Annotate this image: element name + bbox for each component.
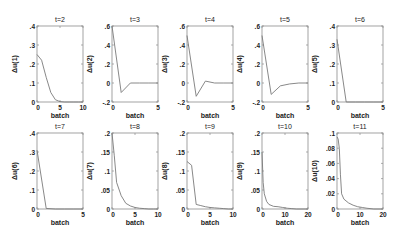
axes-box [262, 133, 308, 209]
x-axis-label: batch [351, 112, 370, 119]
y-tick-label: .3 [30, 149, 36, 156]
x-tick-label: 20 [379, 211, 387, 218]
y-tick-label: -.2 [177, 99, 185, 106]
y-tick-label: .2 [330, 61, 336, 68]
subplot-t-7: 0.1.2.3.405t=7batchΔu(6) [11, 123, 85, 226]
x-axis-label: batch [51, 219, 70, 226]
y-tick-label: .2 [255, 130, 261, 137]
y-tick-label: .6 [255, 23, 261, 30]
y-tick-label: .05 [251, 187, 260, 194]
y-tick-label: .15 [101, 149, 110, 156]
y-tick-label: .6 [105, 23, 111, 30]
x-axis-label: batch [51, 112, 70, 119]
y-axis-label: Δu(7) [86, 162, 94, 180]
y-tick-label: .4 [30, 23, 36, 30]
x-axis-label: batch [351, 219, 370, 226]
y-tick-label: .4 [105, 42, 111, 49]
y-axis-label: Δu(8) [161, 162, 169, 180]
subplot-title: t=6 [355, 16, 365, 23]
y-axis-label: Δu(10) [311, 160, 319, 182]
y-axis-label: Δu(4) [236, 55, 244, 73]
y-tick-label: 0 [331, 99, 335, 106]
y-tick-label: .4 [180, 42, 186, 49]
y-axis-label: Δu(2) [86, 55, 94, 73]
x-tick-label: 5 [208, 211, 212, 218]
subplot-title: t=4 [205, 16, 215, 23]
y-tick-label: 0 [106, 80, 110, 87]
x-tick-label: 10 [356, 211, 364, 218]
subplot-title: t=7 [55, 123, 65, 130]
x-tick-label: 0 [261, 104, 265, 111]
x-axis-label: batch [201, 219, 220, 226]
subplot-t-11: 0.02.04.06.08.101020t=11batchΔu(10) [311, 123, 387, 226]
x-tick-label: 5 [156, 104, 160, 111]
y-tick-label: .3 [330, 42, 336, 49]
x-tick-label: 0 [336, 104, 340, 111]
x-tick-label: 5 [58, 104, 62, 111]
y-axis-label: Δu(1) [11, 55, 19, 73]
x-tick-label: 5 [381, 104, 385, 111]
x-axis-label: batch [126, 112, 145, 119]
y-tick-label: .4 [330, 23, 336, 30]
subplot-t-9: 0.05.1.15.20510t=9batchΔu(8) [161, 123, 237, 226]
y-tick-label: 0 [31, 99, 35, 106]
axes-box [262, 26, 308, 102]
y-tick-label: .1 [30, 187, 36, 194]
subplot-t-3: -.20.2.4.605t=3batchΔu(2) [86, 16, 160, 119]
x-axis-label: batch [201, 112, 220, 119]
axes-box [37, 133, 83, 209]
x-axis-label: batch [126, 219, 145, 226]
subplot-t-5: -.20.2.4.605t=5batchΔu(4) [236, 16, 310, 119]
y-tick-label: .6 [180, 23, 186, 30]
x-tick-label: 5 [133, 211, 137, 218]
y-tick-label: 0 [256, 80, 260, 87]
y-tick-label: .02 [326, 190, 335, 197]
subplot-t-8: 0.05.1.15.20510t=8batchΔu(7) [86, 123, 162, 226]
subplot-title: t=2 [55, 16, 65, 23]
subplot-title: t=10 [278, 123, 292, 130]
x-tick-label: 10 [281, 211, 289, 218]
axes-box [337, 26, 383, 102]
x-tick-label: 10 [154, 211, 162, 218]
y-tick-label: .04 [326, 175, 335, 182]
y-tick-label: 0 [256, 206, 260, 213]
y-tick-label: .05 [176, 187, 185, 194]
y-tick-label: -.2 [252, 99, 260, 106]
subplot-t-10: 0.05.1.15.201020t=10batchΔu(9) [236, 123, 312, 226]
y-tick-label: .2 [105, 61, 111, 68]
y-tick-label: .15 [176, 149, 185, 156]
y-tick-label: .15 [251, 149, 260, 156]
y-tick-label: .1 [330, 130, 336, 137]
y-tick-label: 0 [106, 206, 110, 213]
subplot-title: t=8 [130, 123, 140, 130]
x-tick-label: 0 [261, 211, 265, 218]
subplot-grid-figure: 0.1.2.3.40510t=2batchΔu(1)-.20.2.4.605t=… [0, 0, 402, 236]
subplot-t-4: -.20.2.4.605t=4batchΔu(3) [161, 16, 235, 119]
y-tick-label: .06 [326, 160, 335, 167]
y-tick-label: 0 [181, 206, 185, 213]
y-axis-label: Δu(3) [161, 55, 169, 73]
y-tick-label: .1 [180, 168, 186, 175]
y-tick-label: .4 [30, 130, 36, 137]
y-axis-label: Δu(9) [236, 162, 244, 180]
x-tick-label: 0 [186, 211, 190, 218]
y-tick-label: .1 [30, 80, 36, 87]
y-tick-label: .05 [101, 187, 110, 194]
axes-box [187, 26, 233, 102]
subplot-title: t=11 [353, 123, 366, 130]
y-tick-label: .2 [30, 61, 36, 68]
y-tick-label: .1 [330, 80, 336, 87]
x-axis-label: batch [276, 112, 295, 119]
y-tick-label: .08 [326, 145, 335, 152]
y-tick-label: 0 [331, 206, 335, 213]
x-tick-label: 0 [336, 211, 340, 218]
y-axis-label: Δu(5) [311, 55, 319, 73]
x-tick-label: 0 [111, 104, 115, 111]
axes-box [112, 133, 158, 209]
y-tick-label: 0 [181, 80, 185, 87]
x-tick-label: 5 [231, 104, 235, 111]
y-tick-label: 0 [31, 206, 35, 213]
x-tick-label: 10 [79, 104, 87, 111]
y-axis-label: Δu(6) [11, 162, 19, 180]
subplot-t-2: 0.1.2.3.40510t=2batchΔu(1) [11, 16, 87, 119]
